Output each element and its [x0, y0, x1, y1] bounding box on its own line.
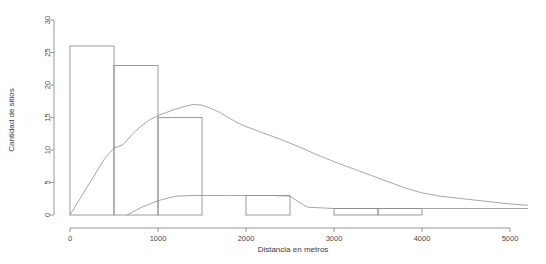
histogram-bar: [378, 209, 422, 216]
histogram-bar: [114, 66, 158, 216]
histogram-bar: [334, 209, 378, 216]
x-tick-label: 4000: [414, 234, 431, 243]
x-tick-label: 2000: [238, 234, 255, 243]
x-tick-label: 5000: [502, 234, 519, 243]
density-curve-densidad-secundaria: [127, 196, 527, 216]
y-tick-label: 0: [43, 213, 52, 217]
y-axis: 051015202530: [43, 16, 54, 217]
density-curve-densidad-principal: [70, 105, 528, 216]
y-tick-label: 15: [43, 113, 52, 121]
histogram-bar: [158, 118, 202, 216]
histogram-bar: [246, 196, 290, 216]
x-tick-label: 1000: [150, 234, 167, 243]
y-axis-title: Cantidad de sitios: [7, 88, 16, 152]
histogram-bar: [70, 46, 114, 215]
x-axis-title: Distancia en metros: [258, 245, 329, 254]
histogram-bars: [70, 46, 422, 215]
y-tick-label: 5: [43, 180, 52, 184]
plot-area: 051015202530 010002000300040005000 Dista…: [0, 0, 546, 264]
x-tick-label: 3000: [326, 234, 343, 243]
x-tick-label: 0: [68, 234, 72, 243]
histogram-chart: 051015202530 010002000300040005000 Dista…: [0, 0, 546, 264]
y-tick-label: 25: [43, 48, 52, 56]
x-axis: 010002000300040005000: [68, 228, 518, 243]
density-curves: [70, 105, 528, 216]
y-tick-label: 20: [43, 81, 52, 89]
y-tick-label: 10: [43, 146, 52, 154]
y-tick-label: 30: [43, 16, 52, 24]
